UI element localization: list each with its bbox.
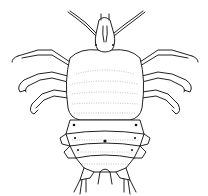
right-antenna xyxy=(114,12,145,36)
head xyxy=(95,18,114,54)
left-legs xyxy=(12,50,70,114)
insect-illustration xyxy=(0,0,208,196)
right-legs xyxy=(140,50,198,114)
louse-drawing xyxy=(0,0,208,196)
thorax xyxy=(66,50,143,120)
left-antenna xyxy=(68,12,96,36)
abdomen xyxy=(66,120,144,172)
